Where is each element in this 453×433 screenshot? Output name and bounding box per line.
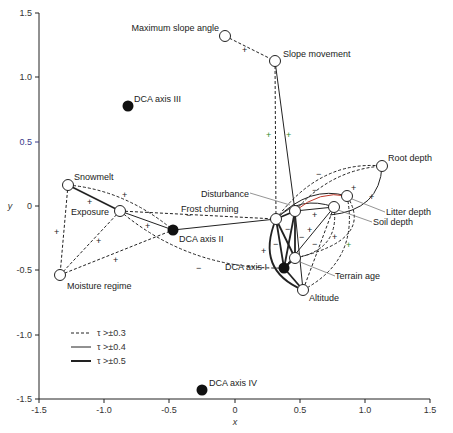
node-slope-movement (270, 56, 281, 67)
node-max-slope-angle (220, 31, 231, 42)
legend: τ >±0.3 τ >±0.4 τ >±0.5 (71, 328, 126, 366)
sign-plus: + (242, 45, 247, 55)
leader-terrain (300, 262, 335, 276)
leader-soil (338, 210, 372, 222)
y-tick-label: 0 (27, 201, 32, 211)
label-dca-axis-ii: DCA axis II (179, 234, 224, 244)
edge-disturb-altitude (295, 211, 303, 290)
sign-plus: + (87, 197, 92, 207)
y-tick-label: -1.5 (16, 394, 32, 404)
sign-plus: + (369, 192, 374, 202)
node-altitude (298, 285, 309, 296)
correlation-network-chart: 1.5 1.0 0.5 0 -0.5 -1.0 -1.5 -1.5 -1.0 -… (0, 0, 453, 433)
edge-slopemove-disturb (275, 61, 295, 211)
sign-plus: + (96, 236, 101, 246)
sign-plus: + (286, 130, 291, 140)
node-root-depth (377, 161, 388, 172)
node-dca-axis-iii (123, 101, 134, 112)
axes: 1.5 1.0 0.5 0 -0.5 -1.0 -1.5 -1.5 -1.0 -… (7, 8, 437, 427)
node-dca-axis-ii (168, 225, 179, 236)
label-moisture-regime: Moisture regime (67, 281, 132, 291)
legend-label-thick: τ >±0.5 (97, 356, 126, 366)
node-dca-axis-iv (197, 385, 208, 396)
label-exposure: Exposure (71, 207, 109, 217)
sign-plus: + (307, 225, 312, 235)
node-terrain-age (290, 253, 301, 264)
label-altitude: Altitude (309, 293, 339, 303)
sign-minus: − (316, 169, 321, 179)
x-tick-label: 1.0 (359, 405, 372, 415)
sign-minus: − (285, 224, 290, 234)
node-frost-churning (271, 214, 282, 225)
label-dca-axis-iii: DCA axis III (134, 94, 181, 104)
node-dca-axis-i (279, 263, 290, 274)
label-root-depth: Root depth (388, 153, 432, 163)
edge-soil-altitude (303, 207, 334, 290)
y-tick-label: 1.5 (19, 8, 32, 18)
edge-moisture-dca2 (60, 230, 173, 275)
y-axis-title: y (7, 201, 13, 211)
edge-dca2-frost (173, 219, 276, 230)
sign-plus: + (122, 190, 127, 200)
sign-plus: + (346, 240, 351, 250)
sign-plus: + (351, 183, 356, 193)
sign-plus: + (145, 221, 150, 231)
label-terrain-age: Terrain age (335, 271, 380, 281)
node-disturbance (290, 206, 301, 217)
sign-plus: + (261, 246, 266, 256)
label-snowmelt: Snowmelt (74, 172, 114, 182)
x-tick-label: 0 (232, 405, 237, 415)
x-axis-title: x (232, 417, 238, 427)
label-max-slope-angle: Maximum slope angle (131, 23, 219, 33)
legend-label-dashed: τ >±0.3 (97, 328, 126, 338)
sign-minus: − (312, 185, 317, 195)
x-tick-label: -0.5 (161, 405, 177, 415)
node-snowmelt (63, 180, 74, 191)
edge-slopemove-frost (275, 61, 276, 219)
label-dca-axis-iv: DCA axis IV (209, 378, 257, 388)
edge-maxslope-slopemove (225, 36, 275, 61)
y-tick-label: -1.0 (16, 330, 32, 340)
sign-plus: + (113, 255, 118, 265)
node-litter-depth (342, 191, 353, 202)
sign-minus: − (196, 263, 201, 273)
sign-plus: + (312, 210, 317, 220)
y-tick-label: 0.5 (19, 137, 32, 147)
label-disturbance: Disturbance (201, 189, 249, 199)
edge-exposure-moisture (60, 211, 120, 275)
node-exposure (115, 206, 126, 217)
x-tick-label: 1.5 (424, 405, 437, 415)
x-tick-label: -1.5 (31, 405, 47, 415)
label-slope-movement: Slope movement (283, 49, 351, 59)
y-tick-label: 1.0 (19, 72, 32, 82)
y-tick-label: -0.5 (16, 265, 32, 275)
node-moisture-regime (55, 270, 66, 281)
x-tick-label: 0.5 (294, 405, 307, 415)
sign-plus: + (266, 130, 271, 140)
sign-minus: − (299, 232, 304, 242)
label-litter-depth: Litter depth (386, 207, 431, 217)
leader-disturbance (250, 193, 290, 205)
sign-plus: + (332, 232, 337, 242)
x-tick-label: -1.0 (96, 405, 112, 415)
sign-minus: − (312, 239, 317, 249)
sign-plus: + (54, 227, 59, 237)
label-dca-axis-i: DCA axis I (225, 262, 267, 272)
edges (60, 36, 385, 290)
edge-snowmelt-moisture (60, 185, 68, 275)
node-soil-depth (329, 202, 340, 213)
legend-label-thin: τ >±0.4 (97, 342, 126, 352)
label-soil-depth: Soil depth (373, 217, 413, 227)
label-frost-churning: Frost churning (181, 204, 239, 214)
sign-minus: − (273, 239, 278, 249)
